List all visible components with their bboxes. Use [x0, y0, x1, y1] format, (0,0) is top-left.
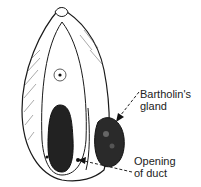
label-opening-of-duct: Opening of duct — [134, 155, 176, 179]
bartholin-gland — [95, 118, 125, 167]
gland-arrowhead — [116, 113, 124, 122]
gland-leader-line — [120, 92, 139, 116]
vaginal-opening — [48, 105, 73, 172]
label-line: Opening — [134, 155, 176, 167]
label-line: gland — [140, 100, 191, 112]
clitoral-hood — [55, 8, 68, 17]
label-line: Bartholin's — [140, 88, 191, 100]
label-line: of duct — [134, 167, 176, 179]
label-bartholins-gland: Bartholin's gland — [140, 88, 191, 112]
